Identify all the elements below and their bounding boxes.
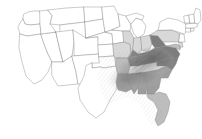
state-washington [23, 11, 41, 25]
state-maine [194, 8, 201, 24]
state-rhode-island [191, 28, 194, 31]
us-thematic-map [0, 0, 202, 139]
southeast-shading-overlay [96, 42, 186, 134]
state-outlines-layer [18, 6, 201, 134]
state-massachusetts [186, 23, 198, 28]
state-montana [48, 7, 85, 25]
state-new-jersey [179, 34, 185, 42]
us-map-svg [0, 0, 202, 139]
state-connecticut [186, 28, 191, 32]
